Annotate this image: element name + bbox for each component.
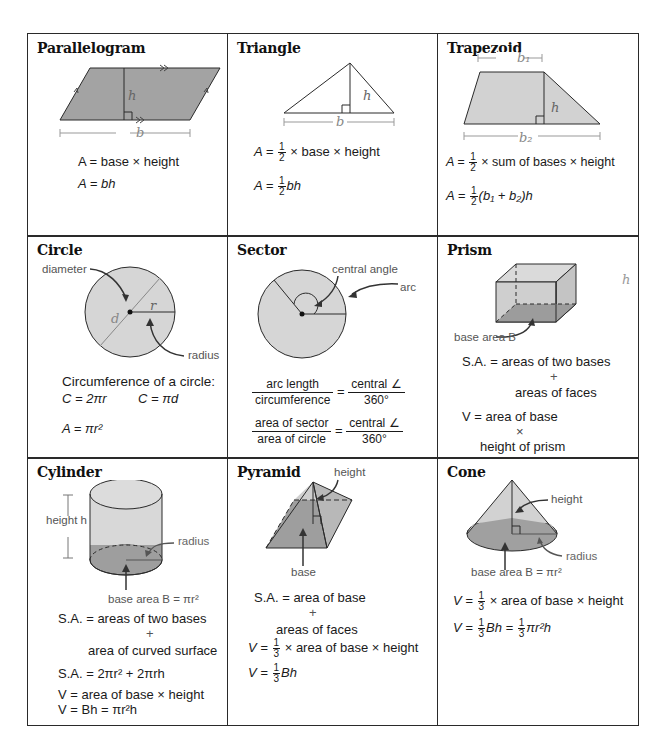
surface-area-plus: + [309, 605, 317, 620]
volume-formula: V = 13Bh [248, 663, 297, 684]
base-label: base [291, 566, 316, 578]
height-label: h [128, 88, 136, 103]
cell-cylinder: Cylinder height h radius base area B = π… [28, 458, 227, 726]
formula-lead: A = [446, 188, 465, 203]
ratio-area-of-sector: area of sectorarea of circle = central ∠… [252, 416, 403, 447]
formula-lead: A = [254, 144, 273, 159]
cell-prism: Prism h base area B S.A. = areas of two … [438, 236, 639, 458]
formula-lead: V = [248, 665, 268, 680]
fraction-third: 13 [273, 663, 281, 684]
height-label: h [363, 88, 371, 103]
formula-lead: V = [248, 640, 268, 655]
surface-area-line2: areas of faces [276, 622, 358, 637]
cell-trapezoid: Trapezoid b₁ h b₂ A = 12 × sum of bases … [438, 34, 639, 236]
formula-lead: A = [446, 155, 465, 169]
height-label: h [551, 100, 559, 115]
formula-lead: V = [453, 593, 473, 608]
height-label: h [622, 272, 630, 287]
formula-tail: (b₁ + b₂)h [479, 188, 533, 203]
volume-formula: V = 13Bh = 13πr²h [453, 618, 551, 639]
surface-area-plus: + [550, 369, 558, 384]
formula-area: A = πr² [62, 421, 102, 436]
volume-times: × [516, 424, 524, 439]
volume-words: V = area of base × height [58, 687, 204, 702]
formula-circumference-radius: C = 2πr [62, 391, 106, 406]
volume-words: V = 13 × area of base × height [248, 638, 418, 659]
formula-tail: πr²h [526, 620, 551, 635]
height-label: height h [46, 514, 87, 526]
fraction-left: area of sectorarea of circle [252, 416, 331, 447]
fraction-half: 12 [469, 152, 477, 173]
cone-figure [438, 476, 639, 576]
cell-triangle: Triangle h b A = 12 × base × height A = … [228, 34, 437, 236]
volume-line2: height of prism [480, 439, 565, 454]
trapezoid-figure [458, 52, 638, 147]
surface-area-line2: area of curved surface [88, 643, 217, 658]
surface-area-plus: + [146, 626, 154, 641]
cell-sector: Sector central angle arc arc lengthcircu… [228, 236, 437, 458]
surface-area-line1: S.A. = areas of two bases [462, 354, 611, 369]
volume-line1: V = area of base [462, 409, 558, 424]
radius-label: radius [188, 349, 219, 361]
formula-area-words: A = 12 × base × height [254, 142, 380, 163]
formula-tail: bh [287, 178, 301, 193]
base-label: b [336, 114, 344, 129]
surface-area-line1: S.A. = area of base [254, 590, 366, 605]
cell-title: Triangle [237, 40, 301, 56]
fraction-right: central ∠360° [346, 416, 402, 447]
fraction-half: 12 [278, 176, 286, 197]
cell-title: Cylinder [37, 464, 102, 480]
fraction-third: 13 [478, 591, 486, 612]
fraction-third: 13 [273, 638, 281, 659]
fraction-third: 13 [518, 618, 526, 639]
cell-cone: Cone height radius base area B = πr² V =… [438, 458, 639, 726]
cell-circle: Circle diameter radius d r Circumference… [28, 236, 227, 458]
pyramid-figure [228, 476, 437, 576]
base-area-label: base area B [454, 331, 516, 343]
formula-sheet-table: Parallelogram h b A = base × height A = … [27, 33, 639, 726]
d-label: d [111, 311, 119, 326]
surface-area-line2: areas of faces [515, 385, 597, 400]
cell-parallelogram: Parallelogram h b A = base × height A = … [28, 34, 227, 236]
radius-label: radius [566, 550, 597, 562]
formula-area-symbols: A = bh [78, 176, 115, 191]
formula-tail: × sum of bases × height [481, 155, 614, 169]
fraction-third: 13 [478, 618, 486, 639]
surface-area-formula: S.A. = 2πr² + 2πrh [58, 666, 165, 681]
formula-area-symbols: A = 12bh [254, 176, 301, 197]
formula-lead: A = [254, 178, 273, 193]
cell-pyramid: Pyramid height base S.A. = area of base … [228, 458, 437, 726]
formula-lead: V = [453, 620, 473, 635]
base1-label: b₁ [517, 50, 531, 65]
central-angle-label: central angle [332, 263, 398, 275]
formula-tail: × base × height [290, 144, 380, 159]
formula-tail: × area of base × height [285, 640, 419, 655]
formula-area-words: A = base × height [78, 154, 179, 169]
volume-words: V = 13 × area of base × height [453, 591, 623, 612]
base-area-label: base area B = πr² [471, 566, 562, 578]
volume-formula: V = Bh = πr²h [58, 702, 137, 717]
formula-circumference-diameter: C = πd [138, 391, 178, 406]
surface-area-line1: S.A. = areas of two bases [58, 611, 207, 626]
fraction-half: 12 [278, 142, 286, 163]
formula-mid: Bh = [486, 620, 513, 635]
base-label: b [136, 125, 144, 140]
ratio-arc-length: arc lengthcircumference = central ∠360° [252, 377, 405, 408]
formula-area-symbols: A = 12(b₁ + b₂)h [446, 186, 533, 207]
diameter-label: diameter [42, 263, 87, 275]
radius-label: radius [178, 535, 209, 547]
equals-sign: = [337, 384, 345, 399]
base2-label: b₂ [519, 130, 533, 145]
fraction-right: central ∠360° [348, 377, 404, 408]
circumference-heading: Circumference of a circle: [62, 374, 215, 389]
arc-label: arc [400, 281, 416, 293]
base-area-label: base area B = πr² [108, 593, 199, 605]
formula-tail: Bh [281, 665, 297, 680]
fraction-half: 12 [470, 186, 478, 207]
r-label: r [150, 298, 156, 313]
equals-sign: = [335, 423, 343, 438]
formula-area-words: A = 12 × sum of bases × height [446, 152, 615, 173]
fraction-left: arc lengthcircumference [252, 377, 333, 408]
height-label: height [551, 493, 582, 505]
cell-title: Parallelogram [37, 40, 145, 56]
